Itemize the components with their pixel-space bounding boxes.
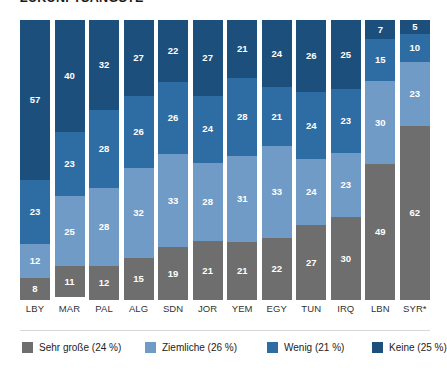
stacked-bar-plot-area: 5723128402325113228281227263215222633192…: [20, 20, 430, 300]
bar-segment: 21: [262, 87, 292, 146]
bar-segment: 28: [89, 110, 119, 188]
bar-segment: 22: [262, 238, 292, 300]
bar-segment: 7: [365, 20, 395, 39]
x-axis-tick-label: LBN: [365, 303, 395, 314]
bar-segment: 23: [400, 62, 430, 126]
legend-item[interactable]: Keine (25 %): [372, 342, 437, 353]
bar-segment: 21: [193, 241, 223, 300]
bar-segment: 40: [55, 20, 85, 132]
bar-segment: 26: [124, 96, 154, 169]
bar-column-syr: 5102362: [400, 20, 430, 300]
bar-segment: 27: [124, 20, 154, 96]
page-title: ZUKUNFTSÄNGSTE: [20, 0, 144, 5]
bar-segment: 28: [193, 163, 223, 241]
bar-segment: 5: [400, 20, 430, 34]
bar-column-alg: 27263215: [124, 20, 154, 300]
x-axis-tick-label: SYR*: [400, 303, 430, 314]
legend-label: Sehr große (24 %): [39, 342, 121, 353]
bar-segment: 15: [365, 39, 395, 81]
legend-label: Wenig (21 %): [284, 342, 344, 353]
chart-page: ZUKUNFTSÄNGSTE 5723128402325113228281227…: [0, 0, 447, 377]
bar-column-tun: 26242427: [296, 20, 326, 300]
bar-segment: 32: [89, 20, 119, 110]
bar-column-yem: 21283121: [227, 20, 257, 300]
bar-segment: 23: [331, 153, 361, 217]
bar-segment: 57: [20, 20, 50, 180]
legend-item[interactable]: Ziemliche (26 %): [145, 342, 267, 353]
bar-column-lby: 5723128: [20, 20, 50, 300]
bar-segment: 10: [400, 34, 430, 62]
bar-column-mar: 40232511: [55, 20, 85, 300]
x-axis-labels: LBYMARPALALGSDNJORYEMEGYTUNIRQLBNSYR*: [20, 303, 430, 314]
legend-divider: [20, 330, 430, 331]
x-axis-tick-label: LBY: [20, 303, 50, 314]
legend-label: Ziemliche (26 %): [162, 342, 237, 353]
bar-segment: 26: [296, 20, 326, 92]
x-axis-tick-label: ALG: [124, 303, 154, 314]
bar-segment: 28: [227, 78, 257, 156]
bar-segment: 25: [55, 196, 85, 266]
x-axis-tick-label: MAR: [55, 303, 85, 314]
bar-segment: 33: [158, 154, 188, 246]
x-axis-tick-label: JOR: [193, 303, 223, 314]
bar-segment: 27: [296, 225, 326, 300]
bar-segment: 49: [365, 164, 395, 300]
bar-segment: 21: [227, 242, 257, 300]
bar-segment: 30: [331, 217, 361, 300]
legend-label: Keine (25 %): [389, 342, 447, 353]
bar-segment: 23: [20, 180, 50, 244]
legend-swatch-icon: [145, 342, 156, 353]
bar-segment: 22: [158, 20, 188, 82]
bar-segment: 19: [158, 247, 188, 300]
chart-legend: Sehr große (24 %)Ziemliche (26 %)Wenig (…: [22, 342, 437, 353]
bar-segment: 8: [20, 278, 50, 300]
bar-segment: 24: [262, 20, 292, 87]
bar-segment: 30: [365, 81, 395, 164]
x-axis-tick-label: IRQ: [331, 303, 361, 314]
bar-column-pal: 32282812: [89, 20, 119, 300]
x-axis-tick-label: PAL: [89, 303, 119, 314]
legend-item[interactable]: Sehr große (24 %): [22, 342, 145, 353]
bar-segment: 15: [124, 258, 154, 300]
bar-column-lbn: 7153049: [365, 20, 395, 300]
bar-segment: 26: [158, 82, 188, 155]
bar-segment: 27: [193, 20, 223, 96]
bar-column-sdn: 22263319: [158, 20, 188, 300]
bar-segment: 31: [227, 156, 257, 242]
bar-segment: 23: [331, 89, 361, 153]
bar-segment: 24: [193, 96, 223, 163]
legend-swatch-icon: [267, 342, 278, 353]
x-axis-tick-label: EGY: [262, 303, 292, 314]
bar-segment: 12: [20, 244, 50, 278]
bar-segment: 28: [89, 188, 119, 266]
legend-item[interactable]: Wenig (21 %): [267, 342, 372, 353]
bar-column-irq: 25232330: [331, 20, 361, 300]
legend-swatch-icon: [22, 342, 33, 353]
bar-column-egy: 24213322: [262, 20, 292, 300]
bar-segment: 32: [124, 168, 154, 258]
legend-swatch-icon: [372, 342, 383, 353]
bar-segment: 24: [296, 159, 326, 226]
bar-segment: 25: [331, 20, 361, 89]
bar-segment: 21: [227, 20, 257, 78]
bar-segment: 11: [55, 266, 85, 297]
bar-segment: 24: [296, 92, 326, 159]
bar-segment: 62: [400, 126, 430, 300]
bar-column-jor: 27242821: [193, 20, 223, 300]
x-axis-tick-label: YEM: [227, 303, 257, 314]
x-axis-tick-label: TUN: [296, 303, 326, 314]
bar-segment: 23: [55, 132, 85, 196]
bar-segment: 33: [262, 146, 292, 238]
bar-segment: 12: [89, 266, 119, 300]
x-axis-tick-label: SDN: [158, 303, 188, 314]
